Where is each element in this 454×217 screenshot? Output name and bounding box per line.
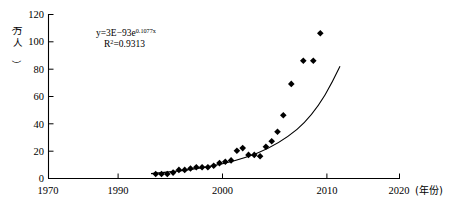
- equation-text: y=3E−93e0.1077x: [96, 27, 157, 38]
- x-tick-label-1990: 1990: [108, 185, 129, 196]
- data-point: [268, 138, 275, 145]
- y-tick-label-100: 100: [28, 36, 44, 47]
- equation-prefix: y=3E: [96, 28, 117, 38]
- data-point: [181, 167, 188, 174]
- data-point: [199, 164, 206, 171]
- data-point: [310, 57, 317, 64]
- data-point: [176, 167, 183, 174]
- y-tick-label-40: 40: [34, 119, 45, 130]
- data-point: [187, 165, 194, 172]
- data-point: [234, 148, 241, 155]
- trendline-curve: [151, 66, 340, 173]
- data-point: [300, 57, 307, 64]
- y-axis-tick-labels: 120 100 80 60 40 20 0: [28, 9, 44, 184]
- y-axis-title-char-1: 万: [13, 25, 23, 36]
- x-axis-title: (年份): [415, 184, 443, 196]
- data-point: [317, 30, 324, 37]
- chart-container: （ 万 人 ） 120 100 80 60 40 20 0: [0, 0, 454, 217]
- y-tick-label-80: 80: [34, 64, 45, 75]
- y-tick-label-60: 60: [34, 91, 45, 102]
- data-point: [257, 153, 264, 160]
- x-tick-label-2020: 2020: [389, 185, 410, 196]
- data-point: [239, 145, 246, 152]
- data-point: [274, 128, 281, 135]
- y-axis-ticks: [49, 15, 54, 152]
- r-squared-value: =0.9313: [113, 39, 145, 49]
- data-point: [251, 152, 258, 159]
- equation-exponent: 0.1077x: [136, 27, 157, 34]
- equation-mantissa: 93e: [122, 28, 136, 38]
- trendline-equation-annotation: y=3E−93e0.1077x R2=0.9313: [96, 27, 157, 49]
- x-tick-label-2000: 2000: [212, 185, 233, 196]
- data-point: [288, 81, 295, 88]
- y-axis-title-char-2: 人: [13, 37, 23, 48]
- data-point: [158, 171, 165, 178]
- y-tick-label-20: 20: [34, 146, 45, 157]
- data-point-series: [152, 30, 323, 177]
- y-axis-title-char-3: ）: [11, 60, 22, 70]
- y-axis-title: （ 万 人 ）: [11, 22, 23, 70]
- exponential-growth-scatter-chart: （ 万 人 ） 120 100 80 60 40 20 0: [0, 0, 454, 217]
- y-tick-label-0: 0: [39, 173, 44, 184]
- x-tick-label-1970: 1970: [38, 185, 59, 196]
- y-tick-label-120: 120: [28, 9, 44, 20]
- data-point: [152, 171, 159, 178]
- x-tick-label-2010: 2010: [316, 185, 337, 196]
- data-point: [205, 164, 212, 171]
- r-squared-text: R2=0.9313: [104, 38, 145, 49]
- data-point: [210, 163, 217, 170]
- data-point: [170, 169, 177, 176]
- data-point: [263, 143, 270, 150]
- data-point: [280, 112, 287, 119]
- x-axis-tick-labels: 1970 1990 2000 2010 2020 (年份): [38, 184, 443, 196]
